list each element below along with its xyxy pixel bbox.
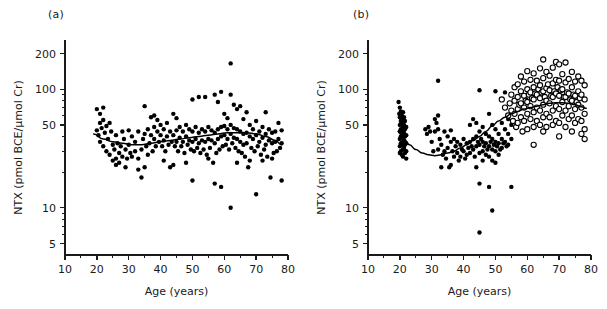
data-point (487, 144, 491, 148)
data-point (547, 115, 552, 120)
data-point (477, 181, 481, 185)
data-point (557, 134, 562, 139)
data-point (98, 112, 102, 116)
y-tick-label: 50 (42, 119, 56, 132)
data-point (436, 127, 440, 131)
data-point (130, 154, 134, 158)
data-point (458, 154, 462, 158)
data-point (222, 112, 226, 116)
data-point (430, 140, 434, 144)
data-point (569, 69, 574, 74)
data-point (190, 129, 194, 133)
x-tick-label: 20 (90, 263, 104, 276)
data-point (579, 131, 584, 136)
data-point (142, 132, 146, 136)
data-point (225, 137, 229, 141)
data-point (206, 125, 210, 129)
data-point (251, 127, 255, 131)
data-point (228, 123, 232, 127)
data-point (582, 127, 587, 132)
data-point (506, 143, 510, 147)
data-point (217, 147, 221, 151)
data-point (582, 111, 587, 116)
data-point (506, 132, 510, 136)
data-point (230, 141, 234, 145)
data-point (152, 137, 156, 141)
data-point (107, 121, 111, 125)
data-point (228, 206, 232, 210)
data-point (238, 104, 242, 108)
data-point (225, 127, 229, 131)
data-point (437, 137, 441, 141)
data-point (101, 105, 105, 109)
panel-b: (b) 510501002001020304050607080Age (year… (303, 0, 607, 309)
data-point (165, 121, 169, 125)
y-axis-title: NTX (pmol BCE/µmol Cr) (12, 80, 25, 214)
data-point (182, 151, 186, 155)
data-point (119, 144, 123, 148)
data-point (235, 161, 239, 165)
data-point (276, 121, 280, 125)
x-tick-label: 70 (249, 263, 263, 276)
data-point (127, 128, 131, 132)
data-point (165, 134, 169, 138)
data-point (130, 134, 134, 138)
panel-b-plot: 510501002001020304050607080Age (years)NT… (303, 0, 607, 309)
data-point (496, 141, 500, 145)
data-point (474, 165, 478, 169)
data-point (163, 149, 167, 153)
data-point (442, 129, 446, 133)
data-point (104, 124, 108, 128)
data-point (436, 113, 440, 117)
data-point (190, 178, 194, 182)
data-point (531, 142, 536, 147)
x-tick-label: 40 (154, 263, 168, 276)
data-point (444, 156, 448, 160)
y-tick-label: 100 (338, 83, 359, 96)
data-point (560, 72, 565, 77)
data-point (249, 146, 253, 150)
data-point (557, 62, 562, 67)
data-point (222, 124, 226, 128)
x-tick-label: 20 (393, 263, 407, 276)
data-point (213, 92, 217, 96)
data-point (160, 144, 164, 148)
data-point (278, 146, 282, 150)
data-point (458, 143, 462, 147)
data-point (436, 78, 440, 82)
data-point (480, 158, 484, 162)
data-point (198, 151, 202, 155)
data-point (268, 175, 272, 179)
data-point (474, 121, 478, 125)
data-point (248, 158, 252, 162)
x-tick-label: 10 (58, 263, 72, 276)
data-point (496, 153, 500, 157)
data-point (228, 61, 232, 65)
data-point (122, 137, 126, 141)
data-point (537, 66, 542, 71)
data-point (99, 126, 103, 130)
data-point (179, 144, 183, 148)
data-point (493, 161, 497, 165)
data-point (434, 121, 438, 125)
data-point (155, 129, 159, 133)
data-point (181, 140, 185, 144)
data-point (428, 129, 432, 133)
y-tick-label: 5 (352, 238, 359, 251)
data-point (123, 147, 127, 151)
data-point (203, 129, 207, 133)
data-point (270, 156, 274, 160)
data-point (244, 141, 248, 145)
x-tick-label: 60 (217, 263, 231, 276)
data-point (525, 111, 530, 116)
data-point (541, 57, 546, 62)
data-point (404, 149, 408, 153)
x-tick-label: 60 (520, 263, 534, 276)
data-point (544, 124, 549, 129)
data-point (254, 192, 258, 196)
data-point (493, 127, 497, 131)
data-point (154, 144, 158, 148)
data-point (477, 230, 481, 234)
data-point (563, 60, 568, 65)
data-point (184, 161, 188, 165)
